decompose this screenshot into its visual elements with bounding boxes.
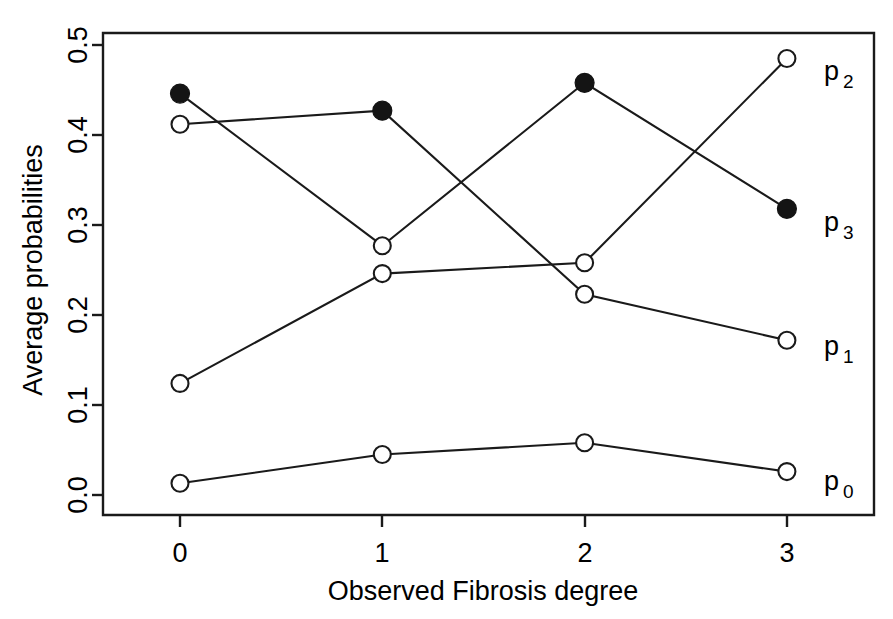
y-axis-ticks (92, 45, 103, 495)
point-open-p1-3 (778, 332, 795, 349)
svg-text:1: 1 (843, 346, 854, 367)
y-tick-label-0.0: 0.0 (63, 476, 93, 514)
y-tick-label-0.2: 0.2 (63, 296, 93, 334)
x-axis-tick-labels: 0 1 2 3 (172, 538, 794, 568)
series-line-p3 (180, 83, 787, 246)
y-axis-title: Average probabilities (18, 144, 48, 396)
x-tick-label-2: 2 (577, 538, 592, 568)
series-line-p1 (180, 111, 787, 341)
svg-text:0: 0 (843, 481, 854, 502)
series-line-p2 (180, 59, 787, 384)
y-tick-label-0.3: 0.3 (63, 206, 93, 244)
x-axis-ticks (180, 515, 787, 527)
point-open-p2-2 (576, 254, 593, 271)
svg-text:p: p (824, 207, 839, 237)
point-open-p2-1 (374, 265, 391, 282)
y-tick-label-0.4: 0.4 (63, 116, 93, 154)
series-p1 (172, 101, 796, 349)
point-open-p2-0 (172, 375, 189, 392)
series-p3 (171, 73, 797, 254)
svg-text:p: p (824, 466, 839, 496)
label-p1: p 1 (824, 331, 854, 367)
point-filled-p3-3 (777, 199, 796, 218)
svg-text:p: p (824, 331, 839, 361)
point-open-p2-3 (778, 50, 795, 67)
point-open-p3-1 (374, 237, 391, 254)
y-tick-label-0.5: 0.5 (63, 26, 93, 64)
svg-text:p: p (824, 56, 839, 86)
x-axis-title: Observed Fibrosis degree (328, 576, 639, 606)
point-filled-p1-1 (373, 101, 392, 120)
point-open-p1-0 (172, 116, 189, 133)
label-p0: p 0 (824, 466, 854, 502)
point-open-p0-3 (778, 463, 795, 480)
series-line-p0 (180, 443, 787, 484)
svg-text:3: 3 (843, 222, 854, 243)
plot-frame (103, 33, 874, 515)
y-tick-label-0.1: 0.1 (63, 386, 93, 424)
point-open-p0-0 (172, 475, 189, 492)
point-filled-p3-2 (575, 73, 594, 92)
y-axis-tick-labels: 0.5 0.4 0.3 0.2 0.1 0.0 (63, 26, 93, 514)
point-filled-p3-0 (171, 84, 190, 103)
point-open-p0-1 (374, 446, 391, 463)
point-open-p1-2 (576, 286, 593, 303)
x-tick-label-1: 1 (374, 538, 389, 568)
data-series-layer (171, 50, 797, 492)
svg-text:2: 2 (843, 71, 854, 92)
x-tick-label-0: 0 (172, 538, 187, 568)
line-chart-svg: 0.5 0.4 0.3 0.2 0.1 0.0 Average probabil… (0, 0, 893, 619)
chart-container: 0.5 0.4 0.3 0.2 0.1 0.0 Average probabil… (0, 0, 893, 619)
label-p2: p 2 (824, 56, 854, 92)
series-p2 (172, 50, 796, 392)
series-labels: p 2 p 3 p 1 p 0 (824, 56, 854, 502)
x-tick-label-3: 3 (779, 538, 794, 568)
label-p3: p 3 (824, 207, 854, 243)
point-open-p0-2 (576, 434, 593, 451)
series-p0 (172, 434, 796, 492)
